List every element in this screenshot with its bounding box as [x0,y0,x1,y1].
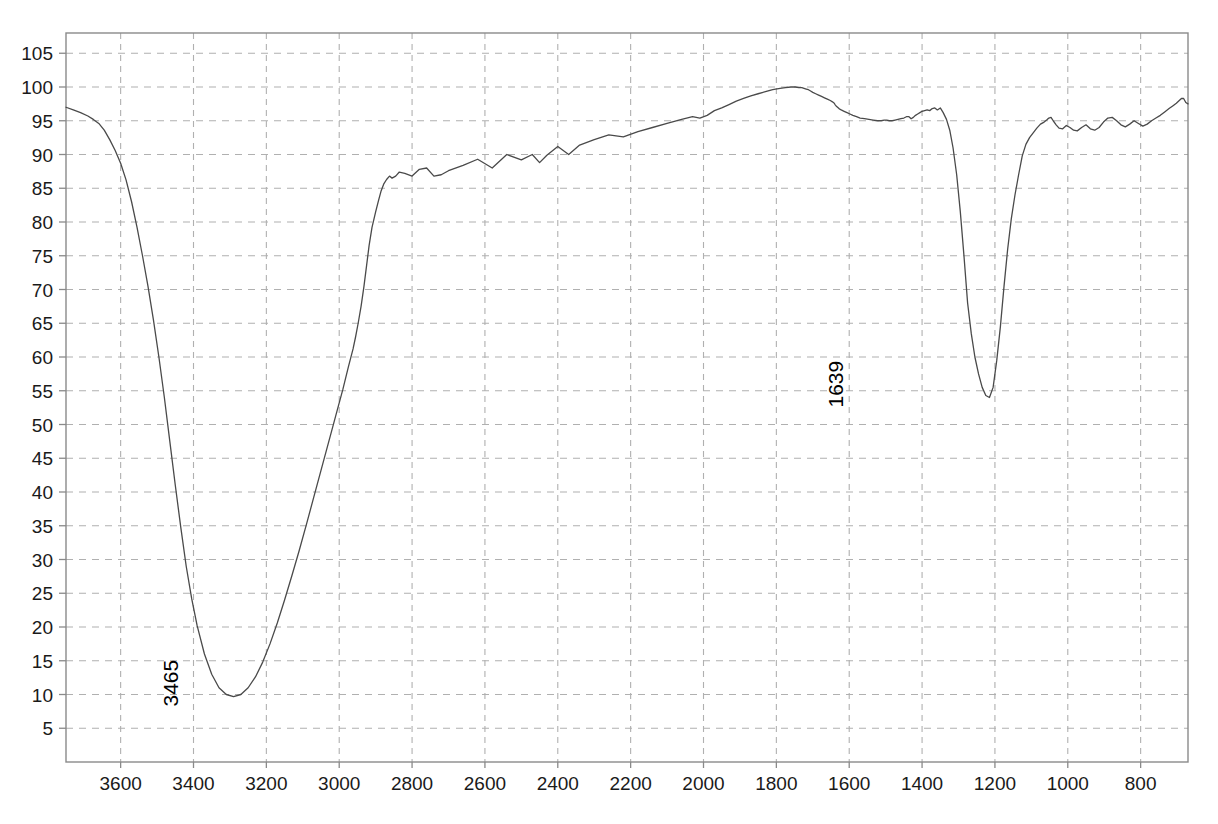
ytick-label-90: 90 [32,145,53,166]
xtick-label-1000: 1000 [1047,773,1089,794]
spectrum-trace [66,87,1188,697]
ytick-label-30: 30 [32,550,53,571]
ytick-label-40: 40 [32,482,53,503]
ytick-label-100: 100 [21,77,53,98]
ytick-label-80: 80 [32,212,53,233]
ytick-label-10: 10 [32,685,53,706]
ytick-label-55: 55 [32,381,53,402]
ytick-label-35: 35 [32,516,53,537]
ytick-label-105: 105 [21,43,53,64]
trace-line-transmittance [66,87,1188,697]
peak-label-1639: 1639 [824,361,847,408]
ytick-label-60: 60 [32,347,53,368]
xtick-label-1600: 1600 [828,773,870,794]
ytick-label-45: 45 [32,448,53,469]
ir-spectrum-chart: 3600340032003000280026002400220020001800… [0,0,1218,824]
vertical-gridlines [121,33,1141,762]
xtick-label-3000: 3000 [318,773,360,794]
xtick-label-1200: 1200 [974,773,1016,794]
xtick-label-3400: 3400 [172,773,214,794]
ytick-label-50: 50 [32,415,53,436]
xtick-label-2000: 2000 [682,773,724,794]
xtick-label-1800: 1800 [755,773,797,794]
ytick-label-25: 25 [32,583,53,604]
plot-area: 3600340032003000280026002400220020001800… [0,0,1218,824]
x-axis-ticks [121,762,1141,768]
ytick-label-15: 15 [32,651,53,672]
xtick-label-3200: 3200 [245,773,287,794]
peak-annotations: 34651639 [159,361,847,707]
xtick-label-1400: 1400 [901,773,943,794]
plot-frame [66,33,1188,762]
xtick-label-2200: 2200 [610,773,652,794]
ytick-label-70: 70 [32,280,53,301]
xtick-label-2600: 2600 [464,773,506,794]
xtick-label-2800: 2800 [391,773,433,794]
xtick-label-800: 800 [1125,773,1157,794]
x-axis-tick-labels: 3600340032003000280026002400220020001800… [100,773,1157,794]
xtick-label-3600: 3600 [100,773,142,794]
y-axis-tick-labels: 5101520253035404550556065707580859095100… [21,43,53,739]
xtick-label-2400: 2400 [537,773,579,794]
ytick-label-65: 65 [32,313,53,334]
ytick-label-20: 20 [32,617,53,638]
y-axis-ticks [59,53,66,728]
ytick-label-75: 75 [32,246,53,267]
ytick-label-85: 85 [32,178,53,199]
plot-border [66,33,1188,762]
peak-label-3465: 3465 [159,660,182,707]
ytick-label-95: 95 [32,111,53,132]
horizontal-gridlines [66,53,1188,728]
ytick-label-5: 5 [42,718,53,739]
